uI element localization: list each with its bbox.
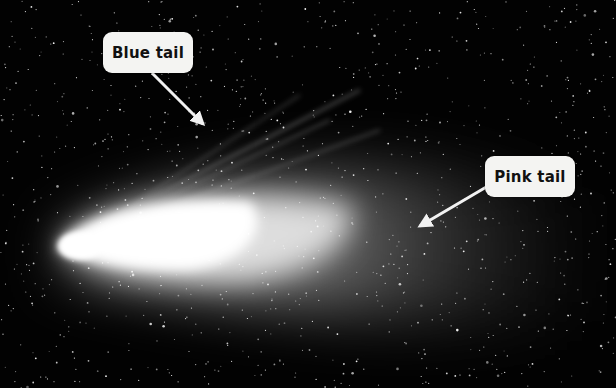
pink-tail-label-text: Pink tail — [494, 168, 565, 186]
blue-tail-label: Blue tail — [103, 32, 193, 73]
pink-tail-arrow — [420, 186, 488, 226]
blue-tail-label-text: Blue tail — [112, 44, 184, 62]
comet-photo: Blue tail Pink tail — [0, 0, 616, 388]
blue-tail-arrow — [152, 73, 203, 124]
pink-tail-label: Pink tail — [485, 156, 575, 197]
